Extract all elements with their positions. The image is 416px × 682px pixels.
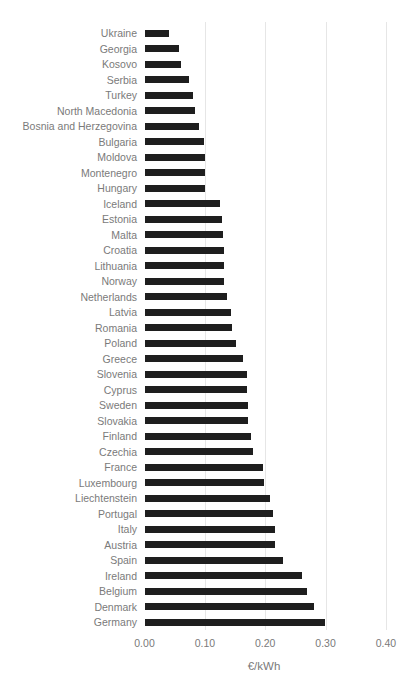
- category-label: Romania: [95, 322, 137, 334]
- bar: [145, 479, 264, 486]
- bar: [145, 169, 205, 176]
- bar: [145, 371, 248, 378]
- category-label: Luxembourg: [79, 477, 137, 489]
- category-label: Norway: [101, 275, 137, 287]
- category-label: Denmark: [94, 601, 137, 613]
- category-label: Greece: [103, 353, 137, 365]
- bar: [145, 262, 225, 269]
- category-label: Finland: [103, 430, 137, 442]
- category-label: Georgia: [100, 43, 137, 55]
- category-label: Latvia: [109, 306, 137, 318]
- category-label: Italy: [118, 523, 137, 535]
- bar-chart: UkraineGeorgiaKosovoSerbiaTurkeyNorth Ma…: [0, 0, 416, 682]
- bar: [145, 293, 227, 300]
- category-label: Croatia: [103, 244, 137, 256]
- bar: [145, 76, 190, 83]
- bar: [145, 107, 195, 114]
- bar: [145, 154, 205, 161]
- category-label: Ukraine: [101, 27, 137, 39]
- bar: [145, 541, 276, 548]
- category-label: Bulgaria: [98, 136, 137, 148]
- bar: [145, 278, 225, 285]
- bar: [145, 123, 199, 130]
- gridline: [386, 22, 387, 630]
- bar: [145, 588, 308, 595]
- category-label: Serbia: [107, 74, 137, 86]
- bar: [145, 247, 224, 254]
- bar: [145, 355, 244, 362]
- bar: [145, 61, 182, 68]
- category-label: North Macedonia: [57, 105, 137, 117]
- bar: [145, 45, 179, 52]
- x-tick-label: 0.30: [315, 637, 335, 649]
- category-label: Liechtenstein: [75, 492, 137, 504]
- bar: [145, 231, 223, 238]
- category-label: Germany: [94, 616, 137, 628]
- category-label: Ireland: [105, 570, 137, 582]
- bar: [145, 340, 236, 347]
- bar: [145, 324, 233, 331]
- category-label: Estonia: [102, 213, 137, 225]
- bar: [145, 309, 231, 316]
- category-label: Iceland: [103, 198, 137, 210]
- category-label: Czechia: [99, 446, 137, 458]
- bar: [145, 557, 283, 564]
- bar: [145, 433, 252, 440]
- bar: [145, 603, 315, 610]
- bar: [145, 417, 249, 424]
- category-label: Turkey: [105, 89, 137, 101]
- category-label: Bosnia and Herzegovina: [23, 120, 137, 132]
- gridline: [265, 22, 266, 630]
- category-label: Spain: [110, 554, 137, 566]
- bar: [145, 200, 220, 207]
- bar: [145, 402, 249, 409]
- x-tick-label: 0.10: [195, 637, 215, 649]
- bar: [145, 30, 169, 37]
- x-tick-label: 0.40: [376, 637, 396, 649]
- bar: [145, 138, 205, 145]
- bar: [145, 386, 248, 393]
- category-label: Slovakia: [97, 415, 137, 427]
- category-label: Poland: [104, 337, 137, 349]
- category-label: Sweden: [99, 399, 137, 411]
- bar: [145, 92, 194, 99]
- bar: [145, 526, 275, 533]
- bar: [145, 510, 274, 517]
- x-tick-label: 0.20: [255, 637, 275, 649]
- bar: [145, 185, 206, 192]
- category-label: Portugal: [98, 508, 137, 520]
- category-label: Malta: [111, 229, 137, 241]
- category-label: Kosovo: [102, 58, 137, 70]
- category-label: Austria: [104, 539, 137, 551]
- bar: [145, 448, 254, 455]
- category-label: Moldova: [97, 151, 137, 163]
- bar: [145, 495, 271, 502]
- category-label: Lithuania: [94, 260, 137, 272]
- bar: [145, 572, 303, 579]
- bar: [145, 216, 223, 223]
- bar: [145, 619, 325, 626]
- category-label: Cyprus: [104, 384, 137, 396]
- category-label: Netherlands: [80, 291, 137, 303]
- gridline: [326, 22, 327, 630]
- category-label: France: [104, 461, 137, 473]
- x-tick-label: 0.00: [134, 637, 154, 649]
- category-label: Belgium: [99, 585, 137, 597]
- category-label: Hungary: [97, 182, 137, 194]
- x-axis-label: €/kWh: [248, 660, 281, 672]
- bar: [145, 464, 263, 471]
- category-label: Montenegro: [81, 167, 137, 179]
- category-label: Slovenia: [97, 368, 137, 380]
